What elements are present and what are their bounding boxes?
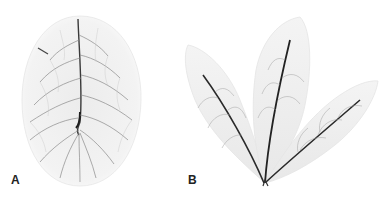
panel-label-a: A <box>11 173 20 187</box>
leaf-figure: A B <box>0 0 385 198</box>
leaf-a <box>22 16 141 186</box>
leaf-b <box>185 17 378 186</box>
panel-label-b: B <box>188 173 197 187</box>
